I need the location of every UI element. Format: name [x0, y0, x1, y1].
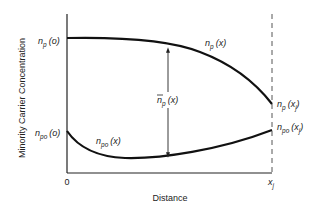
np-x-label: np(x)	[205, 38, 226, 51]
npo-origin-label: npo(o)	[35, 128, 60, 141]
npo-junction-label: npo(xj)	[277, 122, 303, 135]
y-axis-label: Minority Carrier Concentration	[17, 38, 27, 158]
np-junction-label: np(xj)	[277, 99, 300, 112]
origin-label: 0	[64, 177, 69, 187]
junction-label: xj	[267, 177, 275, 190]
npo-x-label: npo(x)	[96, 136, 121, 149]
minority-carrier-diagram: Minority Carrier Concentration Distance …	[0, 0, 321, 205]
np-origin-label: np(o)	[38, 36, 60, 49]
x-axis-label: Distance	[152, 193, 187, 203]
